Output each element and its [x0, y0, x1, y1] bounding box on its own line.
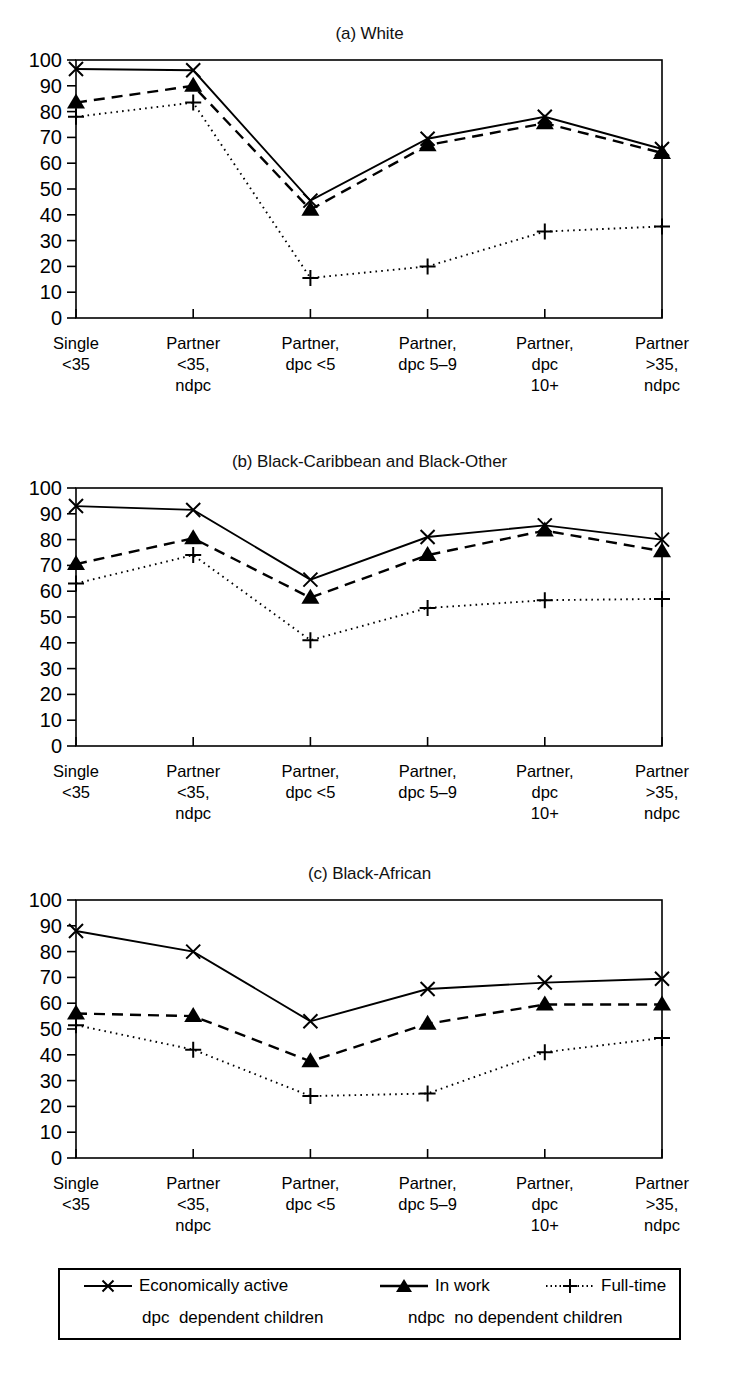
svg-text:30: 30 — [40, 230, 62, 252]
svg-text:60: 60 — [40, 580, 62, 602]
legend-series-row: Economically active In work Full-time — [60, 1276, 679, 1306]
svg-text:80: 80 — [40, 529, 62, 551]
svg-text:20: 20 — [40, 683, 62, 705]
x-axis-tick-label: Partner, dpc <5 — [245, 761, 375, 803]
legend-note-ndpc-text: no dependent children — [454, 1308, 622, 1327]
x-axis-tick-label: Single <35 — [11, 333, 141, 375]
svg-text:0: 0 — [51, 307, 62, 329]
legend-item-economically-active: Economically active — [84, 1276, 288, 1296]
svg-text:80: 80 — [40, 941, 62, 963]
svg-text:20: 20 — [40, 255, 62, 277]
svg-text:50: 50 — [40, 178, 62, 200]
svg-text:30: 30 — [40, 1070, 62, 1092]
x-axis-tick-label: Partner >35, ndpc — [597, 333, 727, 396]
svg-text:100: 100 — [29, 889, 62, 911]
legend-swatch-plus-marker — [546, 1277, 594, 1295]
legend-item-in-work: In work — [380, 1276, 490, 1296]
legend-label-in-work: In work — [435, 1276, 490, 1296]
legend-note-ndpc-abbr: ndpc — [408, 1308, 445, 1327]
x-axis-labels-b: Single <35Partner <35, ndpcPartner, dpc … — [0, 759, 739, 859]
x-axis-labels-c: Single <35Partner <35, ndpcPartner, dpc … — [0, 1171, 739, 1271]
legend-item-full-time: Full-time — [546, 1276, 666, 1296]
svg-text:40: 40 — [40, 632, 62, 654]
svg-text:100: 100 — [29, 477, 62, 499]
x-axis-tick-label: Partner, dpc <5 — [245, 1173, 375, 1215]
legend-notes-row: dpc dependent children ndpc no dependent… — [60, 1308, 679, 1338]
x-axis-tick-label: Partner <35, ndpc — [128, 761, 258, 824]
chart-panel-black-african: (c) Black-African 0102030405060708090100… — [0, 862, 739, 1171]
legend-label-full-time: Full-time — [601, 1276, 666, 1296]
x-axis-tick-label: Partner, dpc 10+ — [480, 761, 610, 824]
x-axis-tick-label: Partner, dpc <5 — [245, 333, 375, 375]
svg-text:90: 90 — [40, 915, 62, 937]
svg-text:10: 10 — [40, 281, 62, 303]
plot-area-a: 0102030405060708090100 Single <35Partner… — [0, 46, 739, 331]
svg-text:0: 0 — [51, 735, 62, 757]
svg-text:40: 40 — [40, 204, 62, 226]
x-axis-tick-label: Partner >35, ndpc — [597, 761, 727, 824]
svg-text:90: 90 — [40, 75, 62, 97]
x-axis-tick-label: Partner <35, ndpc — [128, 1173, 258, 1236]
figure-page: (a) White 0102030405060708090100 Single … — [0, 0, 739, 1380]
svg-text:80: 80 — [40, 101, 62, 123]
legend-note-dpc-text: dependent children — [179, 1308, 324, 1327]
svg-text:50: 50 — [40, 1018, 62, 1040]
plot-svg-a: 0102030405060708090100 — [0, 46, 739, 331]
plot-area-c: 0102030405060708090100 Single <35Partner… — [0, 886, 739, 1171]
x-axis-tick-label: Partner, dpc 5–9 — [363, 333, 493, 375]
svg-text:70: 70 — [40, 554, 62, 576]
x-axis-labels-a: Single <35Partner <35, ndpcPartner, dpc … — [0, 331, 739, 431]
x-axis-tick-label: Partner <35, ndpc — [128, 333, 258, 396]
x-axis-tick-label: Single <35 — [11, 1173, 141, 1215]
svg-text:60: 60 — [40, 152, 62, 174]
svg-text:40: 40 — [40, 1044, 62, 1066]
panel-title-c: (c) Black-African — [0, 862, 739, 886]
legend-note-dpc: dpc dependent children — [142, 1308, 324, 1328]
svg-text:60: 60 — [40, 992, 62, 1014]
x-axis-tick-label: Partner, dpc 5–9 — [363, 761, 493, 803]
chart-panel-black-caribbean-other: (b) Black-Caribbean and Black-Other 0102… — [0, 450, 739, 759]
svg-text:70: 70 — [40, 966, 62, 988]
legend-label-economically-active: Economically active — [139, 1276, 288, 1296]
plot-svg-c: 0102030405060708090100 — [0, 886, 739, 1171]
x-axis-tick-label: Partner, dpc 10+ — [480, 1173, 610, 1236]
legend-note-ndpc: ndpc no dependent children — [408, 1308, 623, 1328]
legend-note-dpc-abbr: dpc — [142, 1308, 169, 1327]
legend: Economically active In work Full-time dp… — [58, 1268, 681, 1340]
chart-panel-white: (a) White 0102030405060708090100 Single … — [0, 22, 739, 331]
svg-text:10: 10 — [40, 709, 62, 731]
legend-swatch-x-marker — [84, 1277, 132, 1295]
x-axis-tick-label: Partner, dpc 5–9 — [363, 1173, 493, 1215]
svg-text:100: 100 — [29, 49, 62, 71]
legend-swatch-triangle-marker — [380, 1277, 428, 1295]
svg-text:0: 0 — [51, 1147, 62, 1169]
plot-area-b: 0102030405060708090100 Single <35Partner… — [0, 474, 739, 759]
svg-text:70: 70 — [40, 126, 62, 148]
x-axis-tick-label: Single <35 — [11, 761, 141, 803]
x-axis-tick-label: Partner >35, ndpc — [597, 1173, 727, 1236]
svg-text:30: 30 — [40, 658, 62, 680]
svg-text:50: 50 — [40, 606, 62, 628]
x-axis-tick-label: Partner, dpc 10+ — [480, 333, 610, 396]
svg-text:90: 90 — [40, 503, 62, 525]
plot-svg-b: 0102030405060708090100 — [0, 474, 739, 759]
panel-title-a: (a) White — [0, 22, 739, 46]
panel-title-b: (b) Black-Caribbean and Black-Other — [0, 450, 739, 474]
svg-text:20: 20 — [40, 1095, 62, 1117]
svg-text:10: 10 — [40, 1121, 62, 1143]
